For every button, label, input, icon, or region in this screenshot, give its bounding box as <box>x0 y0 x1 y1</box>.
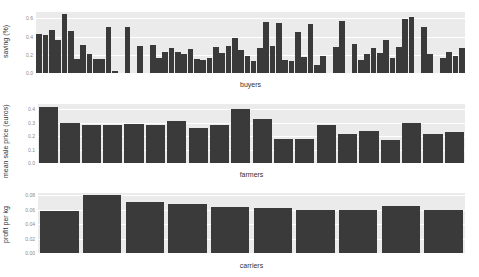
bar <box>423 134 442 164</box>
bar <box>74 59 80 73</box>
gridline <box>36 37 465 38</box>
bar <box>371 48 377 73</box>
bar <box>333 47 339 73</box>
y-tick-label: 0.3 <box>19 120 35 126</box>
bar <box>276 23 282 73</box>
bar <box>274 139 293 163</box>
bar <box>189 128 208 163</box>
bar <box>231 109 250 163</box>
bar <box>124 124 143 163</box>
plot-area <box>38 104 465 163</box>
gridline <box>36 18 465 19</box>
bar <box>295 139 314 163</box>
bar <box>87 54 93 73</box>
bar <box>112 71 118 73</box>
bar <box>251 61 257 73</box>
gridline <box>38 109 465 110</box>
bar <box>99 59 105 73</box>
bar <box>339 21 345 73</box>
bar <box>207 58 213 73</box>
bar <box>263 22 269 73</box>
bar <box>295 32 301 73</box>
bar <box>168 204 206 253</box>
bar <box>106 27 112 73</box>
bar <box>381 140 400 163</box>
y-tick-label: 0.0 <box>17 70 33 76</box>
y-axis-label: profit per kg <box>2 206 9 243</box>
bar <box>238 50 244 73</box>
bar <box>257 48 263 73</box>
bar <box>282 60 288 73</box>
bar <box>43 35 49 73</box>
bar <box>402 19 408 73</box>
bar <box>181 54 187 73</box>
y-tick-label: 0.2 <box>17 52 33 58</box>
bar <box>210 125 229 163</box>
bar <box>169 48 175 73</box>
bar <box>424 210 462 253</box>
bar <box>301 57 307 73</box>
gridline <box>38 163 465 164</box>
bar <box>68 31 74 73</box>
bar <box>175 52 181 73</box>
y-tick-label: 0.4 <box>19 106 35 112</box>
y-tick-label: 0.1 <box>19 147 35 153</box>
bar <box>308 24 314 73</box>
bar <box>137 46 143 73</box>
bar <box>83 195 121 253</box>
bar <box>213 47 219 73</box>
bar <box>245 56 251 73</box>
bar <box>55 40 61 73</box>
y-tick-label: 0.08 <box>19 192 35 198</box>
plot-area <box>36 12 465 73</box>
bar <box>49 30 55 73</box>
bar <box>254 208 292 253</box>
bar <box>453 56 459 73</box>
bar <box>339 210 377 253</box>
gridline <box>38 136 465 137</box>
bar <box>80 45 86 73</box>
bar <box>219 53 225 73</box>
bar <box>358 60 364 73</box>
bar <box>296 210 334 253</box>
bar <box>194 59 200 73</box>
bar <box>146 125 165 163</box>
gridline <box>38 150 465 151</box>
bar <box>62 14 68 73</box>
x-axis-label: carriers <box>38 262 465 269</box>
bar <box>253 119 272 163</box>
y-tick-label: 0.2 <box>19 133 35 139</box>
y-tick-label: 0.06 <box>19 207 35 213</box>
bar <box>232 38 238 74</box>
bar <box>409 17 415 73</box>
bar <box>289 61 295 73</box>
bar <box>125 27 131 73</box>
y-tick-label: 0.00 <box>19 250 35 256</box>
bar <box>156 58 162 73</box>
bar <box>211 207 249 253</box>
gridline <box>38 123 465 124</box>
bar <box>314 65 320 73</box>
y-tick-label: 0.02 <box>19 236 35 242</box>
bar <box>421 27 427 73</box>
bar <box>39 107 58 163</box>
bar <box>427 54 433 73</box>
bar <box>383 40 389 73</box>
bar <box>396 47 402 73</box>
bar <box>446 52 452 73</box>
x-axis-label: farmers <box>38 171 465 178</box>
y-tick-label: 0.0 <box>19 160 35 166</box>
bar <box>402 123 421 163</box>
y-axis-label: mean sale price (euros) <box>2 104 9 178</box>
bar <box>226 46 232 73</box>
bar <box>188 49 194 73</box>
gridline <box>36 73 465 74</box>
bar <box>440 58 446 73</box>
bar <box>162 52 168 73</box>
bar <box>317 125 336 163</box>
bar <box>167 121 186 163</box>
bar <box>459 48 465 73</box>
bar <box>338 134 357 164</box>
bar <box>150 45 156 73</box>
y-axis-label: saving (%) <box>2 25 9 58</box>
